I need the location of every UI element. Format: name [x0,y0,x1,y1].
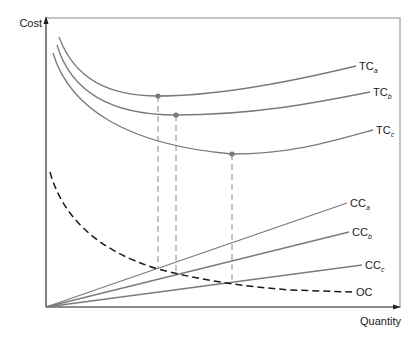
oc-label: OC [356,286,373,298]
cc-c-line [46,265,362,307]
cc-a-label: CCa [350,197,370,211]
tc-c-curve [53,53,373,154]
cost-quantity-diagram: Cost Quantity TCa TCb TCc CCa CCb CCc OC [0,0,417,342]
x-axis-label: Quantity [360,315,401,327]
y-axis-label: Cost [19,17,42,29]
cc-b-label: CCb [352,226,372,240]
tc-b-label: TCb [373,86,392,100]
cc-c-label: CCc [365,259,385,273]
tc-a-curve [59,37,356,96]
y-axis-arrow-icon [44,16,49,24]
cc-b-line [46,232,349,307]
cc-a-line [46,203,347,307]
oc-curve [50,172,352,292]
tc-c-label: TCc [376,124,395,138]
tc-b-curve [57,45,370,115]
tc-a-label: TCa [359,60,378,74]
